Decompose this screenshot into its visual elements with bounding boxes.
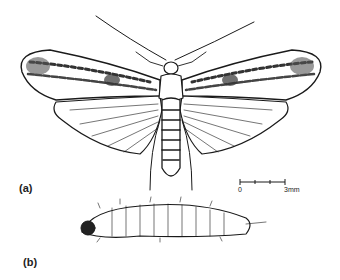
scale-bar-start: 0: [238, 186, 242, 193]
scale-bar: [240, 179, 285, 185]
panel-label-b: (b): [23, 256, 37, 268]
moth-illustration: [21, 16, 321, 190]
panel-label-a: (a): [19, 182, 32, 194]
moth-and-larva-illustration: [0, 0, 340, 280]
scale-bar-end: 3mm: [284, 186, 300, 193]
larva-illustration: [81, 197, 266, 242]
